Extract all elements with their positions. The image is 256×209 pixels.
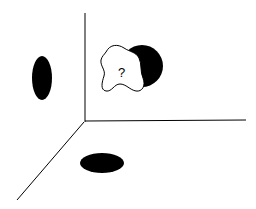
- left-wall-projection: [32, 56, 52, 100]
- horizontal-axis: [85, 120, 246, 121]
- depth-axis: [17, 122, 84, 200]
- projection-diagram: ?: [0, 0, 256, 209]
- floor-projection: [80, 153, 124, 173]
- unknown-object-label: ?: [118, 65, 125, 80]
